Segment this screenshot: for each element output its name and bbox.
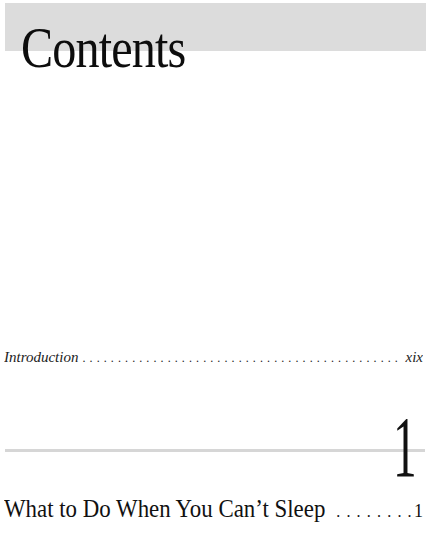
toc-entry-label: Introduction [4,349,78,366]
page-title: Contents [21,16,185,80]
dot-leader: ........................................… [336,503,412,521]
toc-entry-page-number: 1 [414,501,423,522]
chapter-number: 1 [393,404,417,490]
toc-entry-page-number: xix [406,349,423,366]
toc-entry-label: What to Do When You Can’t Sleep [4,494,325,524]
toc-entry-introduction[interactable]: Introduction ...........................… [4,349,423,366]
toc-entry-chapter-1[interactable]: What to Do When You Can’t Sleep ........… [4,494,423,524]
dot-leader: ........................................… [82,351,401,366]
chapter-divider-rule [5,449,425,452]
